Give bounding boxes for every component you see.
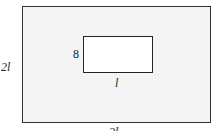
- inner-rectangle: [83, 36, 153, 73]
- inner-height-label: 8: [73, 48, 79, 60]
- outer-height-label: 2l: [1, 61, 10, 73]
- outer-width-label: 2l: [109, 126, 118, 131]
- inner-width-label: l: [115, 77, 118, 89]
